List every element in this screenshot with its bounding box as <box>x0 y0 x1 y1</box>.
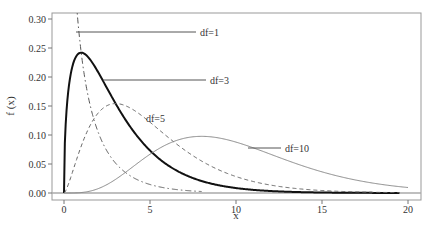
y-tick-label: 0.05 <box>29 159 47 170</box>
x-tick-label: 5 <box>148 204 153 215</box>
curve-df-3 <box>64 53 399 193</box>
y-tick-label: 0.30 <box>29 14 47 25</box>
y-tick-label: 0.00 <box>29 188 47 199</box>
curve-df-5 <box>64 104 399 193</box>
y-tick-label: 0.20 <box>29 72 47 83</box>
density-curves <box>64 0 408 193</box>
plot-frame <box>52 13 421 200</box>
x-tick-label: 15 <box>317 204 327 215</box>
curve-df-1 <box>64 0 201 192</box>
y-axis-title: f (x) <box>4 96 17 116</box>
curve-label-df-5: df=5 <box>146 113 165 124</box>
curve-df-10 <box>64 136 408 193</box>
chi-square-density-chart: 0.000.050.100.150.200.250.30 05101520 df… <box>0 0 442 235</box>
curve-label-df-10: df=10 <box>285 143 309 154</box>
curve-labels: df=1df=3df=5df=10 <box>76 27 309 154</box>
curve-label-df-3: df=3 <box>210 75 229 86</box>
y-tick-label: 0.15 <box>29 101 47 112</box>
y-tick-label: 0.10 <box>29 130 47 141</box>
x-tick-label: 20 <box>403 204 413 215</box>
x-axis-title: x <box>233 209 239 221</box>
y-axis-ticks: 0.000.050.100.150.200.250.30 <box>29 14 53 199</box>
x-tick-label: 0 <box>62 204 67 215</box>
y-tick-label: 0.25 <box>29 43 47 54</box>
curve-label-df-1: df=1 <box>200 27 219 38</box>
